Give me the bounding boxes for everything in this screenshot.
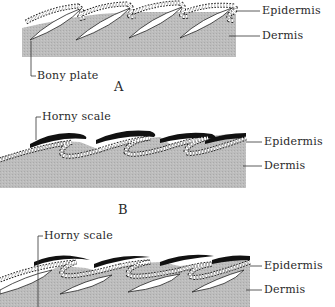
panel-b <box>0 117 262 188</box>
panel-letter-b: B <box>118 203 128 216</box>
skin-scales-diagram: Epidermis Dermis Bony plate A Horny scal… <box>0 0 335 307</box>
label-epidermis-a: Epidermis <box>262 5 321 16</box>
label-dermis-a: Dermis <box>262 30 303 41</box>
label-dermis-c: Dermis <box>264 284 305 295</box>
label-epidermis-b: Epidermis <box>264 136 323 147</box>
label-epidermis-c: Epidermis <box>264 260 323 271</box>
panel-c <box>0 236 262 307</box>
label-dermis-b: Dermis <box>264 160 305 171</box>
label-horny-scale-b: Horny scale <box>42 111 111 122</box>
panel-letter-a: A <box>114 80 123 93</box>
label-bony-plate-a: Bony plate <box>37 70 99 81</box>
panel-a <box>22 3 260 76</box>
label-horny-scale-c: Horny scale <box>44 230 113 241</box>
dermis-a <box>22 12 236 57</box>
